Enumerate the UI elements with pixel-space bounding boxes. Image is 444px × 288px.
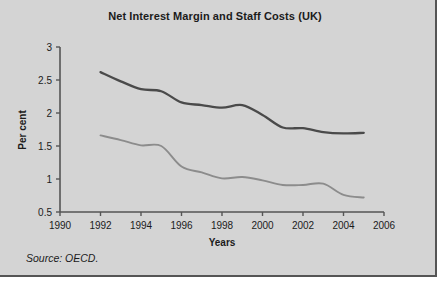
series-line-2 (101, 135, 364, 197)
y-tick-label: 1 (46, 174, 52, 185)
y-tick-label: 2 (46, 108, 52, 119)
y-tick-label: 3 (46, 42, 52, 53)
y-tick-label: 1.5 (38, 141, 52, 152)
x-tick-label: 1996 (170, 220, 193, 231)
x-tick-label: 1992 (89, 220, 112, 231)
x-tick-label: 2000 (251, 220, 274, 231)
y-axis-ticks: 0.511.522.53 (38, 42, 60, 218)
axes-group: 0.511.522.53 199019921994199619982000200… (38, 42, 395, 232)
y-axis-title: Per cent (17, 110, 28, 150)
y-tick-label: 0.5 (38, 207, 52, 218)
source-note: Source: OECD. (26, 252, 98, 264)
x-axis-title: Years (209, 237, 236, 248)
x-tick-label: 1990 (49, 220, 72, 231)
figure-panel: Net Interest Margin and Staff Costs (UK)… (0, 0, 437, 277)
x-tick-label: 2006 (373, 220, 396, 231)
x-tick-label: 1994 (130, 220, 153, 231)
series-line-1 (101, 72, 364, 133)
data-series-group (101, 72, 364, 197)
x-axis-ticks: 199019921994199619982000200220042006 (49, 212, 396, 231)
x-tick-label: 2004 (332, 220, 355, 231)
y-tick-label: 2.5 (38, 75, 52, 86)
x-tick-label: 2002 (292, 220, 315, 231)
chart-plot: 0.511.522.53 199019921994199619982000200… (0, 0, 437, 277)
x-tick-label: 1998 (211, 220, 234, 231)
